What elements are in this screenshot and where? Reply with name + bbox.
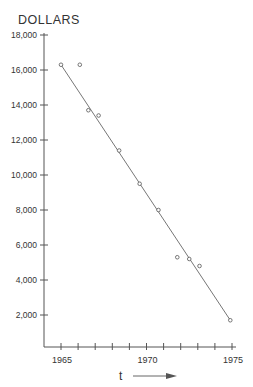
data-point-marker	[117, 149, 121, 153]
scatter-chart: 2,0004,0006,0008,00010,00012,00014,00016…	[0, 0, 253, 387]
data-point-marker	[87, 108, 91, 112]
y-axis-ticks: 2,0004,0006,0008,00010,00012,00014,00016…	[11, 30, 48, 320]
axes	[44, 33, 236, 347]
y-tick-label: 10,000	[11, 170, 37, 180]
data-point-marker	[97, 114, 101, 118]
data-point-marker	[59, 63, 63, 67]
x-tick-label: 1975	[223, 355, 243, 365]
trend-line	[61, 65, 230, 321]
y-tick-label: 8,000	[16, 205, 38, 215]
data-point-marker	[78, 63, 82, 67]
data-point-marker	[228, 318, 232, 322]
y-tick-label: 16,000	[11, 65, 37, 75]
x-tick-label: 1970	[137, 355, 157, 365]
arrow-right-icon	[166, 373, 177, 379]
y-tick-label: 12,000	[11, 135, 37, 145]
y-tick-label: 2,000	[16, 310, 38, 320]
x-axis-title-text: t	[119, 369, 123, 383]
y-tick-label: 4,000	[16, 275, 38, 285]
data-point-marker	[138, 182, 142, 186]
y-tick-label: 14,000	[11, 100, 37, 110]
x-axis-title: t	[119, 369, 177, 383]
x-tick-label: 1965	[52, 355, 72, 365]
x-axis-ticks: 196519701975	[52, 343, 243, 365]
y-tick-label: 18,000	[11, 30, 37, 40]
y-tick-label: 6,000	[16, 240, 38, 250]
data-point-marker	[157, 208, 161, 212]
data-point-marker	[175, 255, 179, 259]
regression-line	[61, 65, 230, 321]
data-point-marker	[187, 257, 191, 261]
data-point-marker	[198, 264, 202, 268]
